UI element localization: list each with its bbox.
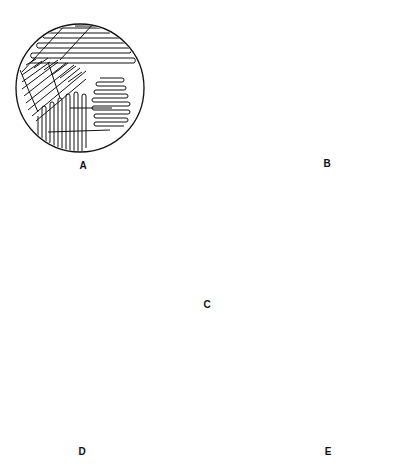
label-e: E (325, 446, 332, 457)
plate-a (16, 22, 144, 154)
label-c: C (203, 299, 210, 310)
label-d: D (78, 446, 85, 457)
streak-plate-diagram (0, 0, 405, 472)
label-b: B (323, 158, 330, 169)
label-a: A (79, 160, 86, 171)
